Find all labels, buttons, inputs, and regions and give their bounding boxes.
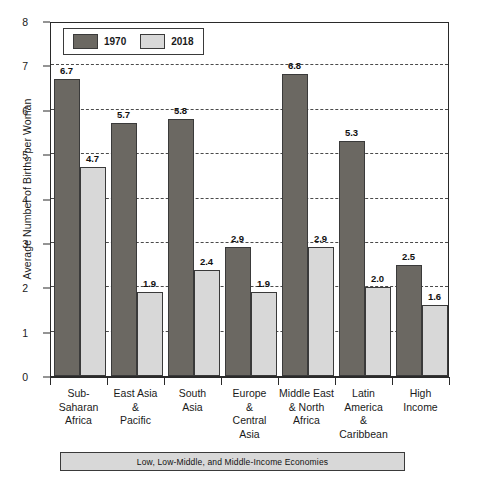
x-axis-category-label: Sub-SaharanAfrica	[50, 387, 107, 428]
x-axis-category-label: Europe&CentralAsia	[221, 387, 278, 441]
legend-label-2018: 2018	[171, 36, 193, 47]
y-axis-tick-mark	[43, 110, 50, 111]
bar-value-label: 1.9	[257, 278, 270, 289]
bar-1970-5: 6.8	[282, 74, 308, 376]
bar-wrapper: 2.4	[194, 23, 220, 376]
x-axis-tick-mark	[335, 377, 336, 385]
x-axis-tick-mark	[449, 377, 450, 385]
y-axis-tick-label: 8	[0, 16, 28, 28]
bar-2018-5: 2.9	[308, 247, 334, 376]
bar-wrapper: 6.7	[54, 23, 80, 376]
bar-wrapper: 1.9	[137, 23, 163, 376]
y-axis-tick-mark	[43, 377, 50, 378]
x-axis-label-line: South	[164, 387, 221, 401]
y-axis-tick-label: 0	[0, 371, 28, 383]
bar-value-label: 2.5	[402, 251, 415, 262]
bar-2018-6: 2.0	[365, 287, 391, 376]
bar-group: 2.91.9	[222, 23, 279, 376]
legend-swatch-1970-icon	[73, 34, 98, 49]
bar-2018-7: 1.6	[422, 305, 448, 376]
bar-wrapper: 5.3	[339, 23, 365, 376]
x-axis-labels: Sub-SaharanAfricaEast Asia&PacificSouthA…	[50, 387, 449, 457]
x-axis-tick-mark	[221, 377, 222, 385]
bar-value-label: 5.3	[345, 127, 358, 138]
x-axis-label-line: & North	[278, 401, 335, 415]
bar-1970-6: 5.3	[339, 141, 365, 376]
x-axis-line	[50, 377, 449, 378]
y-axis-tick-mark	[43, 199, 50, 200]
x-axis-label-line: Income	[392, 401, 449, 415]
bar-2018-2: 1.9	[137, 292, 163, 376]
bar-1970-3: 5.8	[168, 119, 194, 376]
bar-value-label: 6.8	[288, 60, 301, 71]
y-axis-tick-mark	[43, 66, 50, 67]
x-axis-label-line: High	[392, 387, 449, 401]
y-axis-tick-label: 4	[0, 194, 28, 206]
x-axis-tick-mark	[107, 377, 108, 385]
y-axis-tick-mark	[43, 22, 50, 23]
x-axis-label-line: Asia	[221, 428, 278, 442]
bar-wrapper: 4.7	[80, 23, 106, 376]
bar-wrapper: 2.0	[365, 23, 391, 376]
y-axis-tick-mark	[43, 288, 50, 289]
bar-wrapper: 2.9	[225, 23, 251, 376]
bars-layer: 6.74.75.71.95.82.42.91.96.82.95.32.02.51…	[51, 23, 448, 376]
x-axis-label-line: Central	[221, 414, 278, 428]
x-axis-tick-mark	[164, 377, 165, 385]
x-axis-label-line: Africa	[50, 414, 107, 428]
bar-group: 5.71.9	[108, 23, 165, 376]
bar-wrapper: 1.9	[251, 23, 277, 376]
bar-2018-1: 4.7	[80, 167, 106, 376]
x-axis-category-label: HighIncome	[392, 387, 449, 414]
x-axis-label-line: Asia	[164, 401, 221, 415]
legend-label-1970: 1970	[104, 36, 126, 47]
bar-value-label: 1.9	[143, 278, 156, 289]
bar-wrapper: 1.6	[422, 23, 448, 376]
bar-value-label: 2.0	[371, 273, 384, 284]
x-axis-label-line: Caribbean	[335, 428, 392, 442]
x-axis-label-line: Africa	[278, 414, 335, 428]
x-axis-category-label: SouthAsia	[164, 387, 221, 414]
bar-value-label: 2.9	[314, 233, 327, 244]
caption-text: Low, Low-Middle, and Middle-Income Econo…	[137, 457, 328, 467]
y-axis-tick-label: 3	[0, 238, 28, 250]
bar-wrapper: 2.9	[308, 23, 334, 376]
fertility-bar-chart: Average Number of Births per Woman 01234…	[0, 0, 481, 484]
bar-group: 2.51.6	[393, 23, 450, 376]
x-axis-label-line: &	[107, 401, 164, 415]
bar-1970-4: 2.9	[225, 247, 251, 376]
x-axis-category-label: LatinAmerica&Caribbean	[335, 387, 392, 441]
bar-group: 5.32.0	[336, 23, 393, 376]
legend-item-2018: 2018	[140, 34, 193, 49]
bar-1970-2: 5.7	[111, 123, 137, 376]
bar-wrapper: 2.5	[396, 23, 422, 376]
legend-swatch-2018-icon	[140, 34, 165, 49]
bar-value-label: 1.6	[428, 291, 441, 302]
y-axis-tick-mark	[43, 243, 50, 244]
bar-1970-7: 2.5	[396, 265, 422, 376]
bar-value-label: 2.4	[200, 256, 213, 267]
bar-value-label: 4.7	[86, 153, 99, 164]
bar-2018-3: 2.4	[194, 270, 220, 377]
x-axis-label-line: Sub-	[50, 387, 107, 401]
x-axis-tick-mark	[392, 377, 393, 385]
bar-group: 5.82.4	[165, 23, 222, 376]
x-axis-label-line: America	[335, 401, 392, 415]
x-axis-label-line: &	[335, 414, 392, 428]
x-axis-tick-mark	[50, 377, 51, 385]
x-axis-tick-mark	[278, 377, 279, 385]
bar-value-label: 5.8	[174, 105, 187, 116]
x-axis-label-line: &	[221, 401, 278, 415]
x-axis-label-line: Middle East	[278, 387, 335, 401]
y-axis-tick-label: 5	[0, 149, 28, 161]
x-axis-label-line: Latin	[335, 387, 392, 401]
bar-wrapper: 5.7	[111, 23, 137, 376]
bar-value-label: 5.7	[117, 109, 130, 120]
y-axis-tick-mark	[43, 155, 50, 156]
x-axis-label-line: Europe	[221, 387, 278, 401]
x-axis-label-line: Pacific	[107, 414, 164, 428]
legend: 1970 2018	[63, 28, 204, 55]
bar-value-label: 2.9	[231, 233, 244, 244]
x-axis-category-label: East Asia&Pacific	[107, 387, 164, 428]
y-axis-tick-label: 7	[0, 60, 28, 72]
